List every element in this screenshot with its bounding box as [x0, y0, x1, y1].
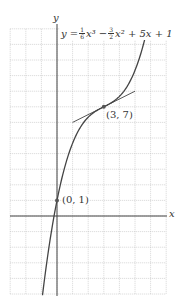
equation-label: y = 16 x³ − 32 x² + 5x + 1	[60, 27, 174, 40]
point-label-3-7: (3, 7)	[106, 109, 133, 120]
eq-f1-den: 6	[80, 34, 84, 40]
eq-fraction-2: 32	[108, 27, 114, 40]
eq-lhs: y =	[61, 28, 78, 39]
x-axis-label: x	[169, 208, 175, 219]
eq-term-1: x³ −	[86, 28, 107, 39]
eq-term-2: x² + 5x + 1	[115, 28, 173, 39]
y-axis-label: y	[53, 12, 59, 23]
point-label-0-1: (0, 1)	[62, 194, 89, 205]
point-0-1	[55, 198, 59, 202]
cubic-curve	[42, 30, 147, 295]
eq-f2-den: 2	[109, 34, 113, 40]
plot-area	[0, 0, 181, 307]
grid-lines	[10, 29, 166, 294]
eq-fraction-1: 16	[79, 27, 85, 40]
